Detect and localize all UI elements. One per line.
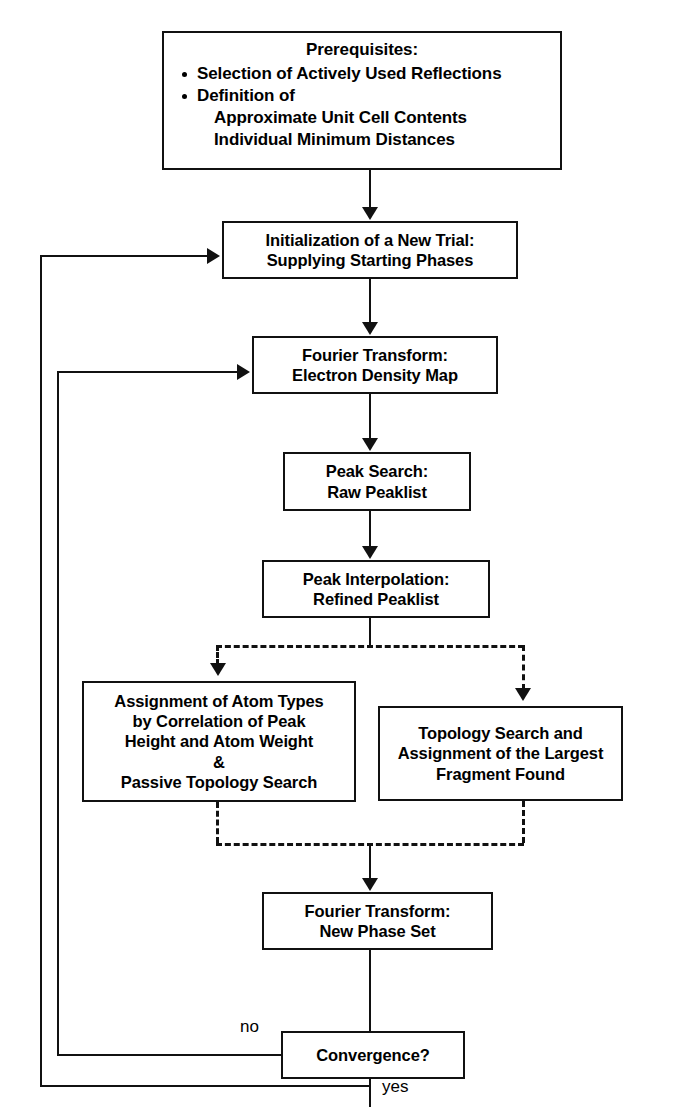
arrow-right-icon: [237, 364, 250, 380]
topology-search-line-1: Topology Search and: [418, 723, 583, 743]
connector-peak-interpolation-to-split: [369, 618, 371, 647]
connector-fourier-density-to-peak-search: [369, 394, 371, 439]
prerequisites-title: Prerequisites:: [174, 40, 550, 61]
list-item: Selection of Actively Used Reflections: [180, 64, 550, 85]
peak-search-line-1: Peak Search:: [326, 461, 428, 481]
node-atom-type-assignment: Assignment of Atom Types by Correlation …: [82, 681, 356, 802]
dashed-branch-left: [216, 645, 219, 665]
initialization-line-2: Supplying Starting Phases: [267, 250, 474, 270]
arrow-down-icon: [362, 438, 378, 451]
prerequisites-sub-1: Approximate Unit Cell Contents: [174, 108, 550, 129]
arrow-right-icon: [207, 248, 220, 264]
flowchart-canvas: Prerequisites: Selection of Actively Use…: [0, 0, 676, 1110]
prerequisites-sub-2: Individual Minimum Distances: [174, 130, 550, 151]
connector-merge-to-fourier-phase: [369, 843, 371, 879]
node-topology-search: Topology Search and Assignment of the La…: [378, 706, 623, 801]
fourier-density-line-2: Electron Density Map: [292, 365, 458, 385]
atom-assignment-line-3: Height and Atom Weight: [125, 731, 313, 751]
fourier-phase-line-1: Fourier Transform:: [305, 901, 451, 921]
arrow-down-icon: [210, 663, 226, 676]
dashed-merge-left: [216, 802, 219, 843]
connector-no-branch-riser: [57, 371, 59, 1056]
arrow-down-icon: [362, 546, 378, 559]
peak-interpolation-line-2: Refined Peaklist: [313, 589, 439, 609]
node-fourier-transform-phase: Fourier Transform: New Phase Set: [262, 892, 493, 950]
arrow-down-icon: [362, 322, 378, 335]
arrow-down-icon: [362, 207, 378, 220]
connector-yes-branch-riser: [40, 255, 42, 1087]
connector-fourier-phase-to-convergence: [369, 950, 371, 1031]
dashed-merge-right: [522, 801, 525, 843]
node-peak-interpolation: Peak Interpolation: Refined Peaklist: [262, 560, 490, 618]
arrow-down-icon: [362, 878, 378, 891]
bullet-icon: [182, 94, 187, 99]
connector-peak-search-to-peak-interpolation: [369, 511, 371, 546]
fourier-density-line-1: Fourier Transform:: [302, 345, 448, 365]
peak-search-line-2: Raw Peaklist: [327, 482, 427, 502]
node-fourier-transform-density: Fourier Transform: Electron Density Map: [252, 336, 498, 394]
topology-search-line-2: Assignment of the Largest: [398, 743, 604, 763]
prerequisites-bullet-2: Definition of: [197, 86, 295, 105]
node-convergence-decision: Convergence?: [281, 1031, 465, 1079]
connector-initialization-to-fourier-density: [369, 279, 371, 323]
connector-yes-branch-horizontal: [40, 1085, 371, 1087]
bullet-icon: [182, 72, 187, 77]
initialization-line-1: Initialization of a New Trial:: [266, 230, 475, 250]
node-initialization: Initialization of a New Trial: Supplying…: [222, 221, 518, 279]
connector-no-branch-horizontal: [57, 1054, 281, 1056]
connector-yes-branch-to-initialization: [40, 255, 208, 257]
atom-assignment-line-5: Passive Topology Search: [121, 772, 317, 792]
prerequisites-bullet-1: Selection of Actively Used Reflections: [197, 64, 502, 83]
edge-label-yes: yes: [382, 1077, 408, 1097]
convergence-label: Convergence?: [316, 1045, 429, 1065]
fourier-phase-line-2: New Phase Set: [319, 921, 435, 941]
atom-assignment-line-2: by Correlation of Peak: [133, 711, 306, 731]
atom-assignment-line-1: Assignment of Atom Types: [114, 691, 323, 711]
peak-interpolation-line-1: Peak Interpolation:: [303, 569, 450, 589]
connector-no-branch-to-fourier-density: [57, 371, 238, 373]
connector-yes-branch-drop: [369, 1079, 371, 1107]
edge-label-no: no: [240, 1017, 259, 1037]
atom-assignment-line-4: &: [213, 752, 225, 772]
connector-prerequisites-to-initialization: [369, 170, 371, 208]
dashed-branch-right: [522, 645, 525, 690]
prerequisites-bullet-list: Selection of Actively Used Reflections D…: [174, 64, 550, 107]
node-prerequisites: Prerequisites: Selection of Actively Use…: [162, 31, 562, 170]
node-peak-search: Peak Search: Raw Peaklist: [283, 452, 471, 511]
list-item: Definition of: [180, 86, 550, 107]
topology-search-line-3: Fragment Found: [436, 764, 565, 784]
arrow-down-icon: [515, 688, 531, 701]
dashed-split-top-bus: [216, 645, 524, 648]
